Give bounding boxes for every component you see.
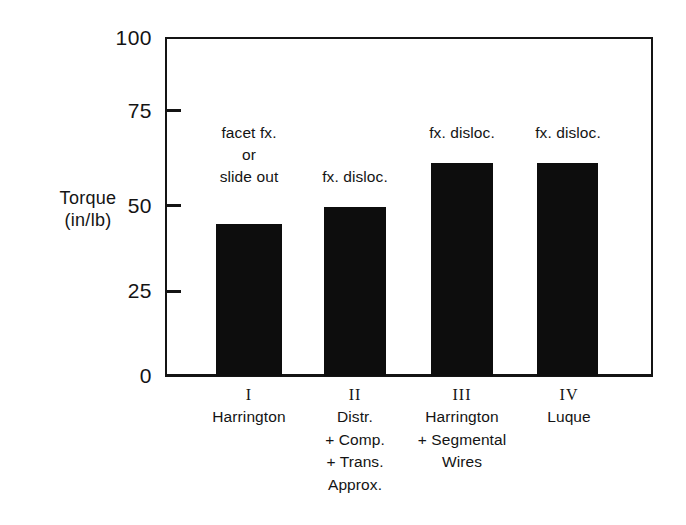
category-desc-IV-line-1: Luque [506,406,632,428]
y-tick-label-0: 0 [88,365,152,386]
bar-annotation-I-line-2: or [181,144,317,166]
y-tick-mark-50 [167,204,181,207]
baseline-segment-4 [493,374,537,377]
y-tick-label-75: 75 [88,100,152,121]
y-tick-label-25: 25 [88,280,152,301]
y-tick-mark-75 [167,109,181,112]
bar-annotation-II: fx. disloc. [291,166,419,188]
bar-I [216,224,282,376]
bar-annotation-I-line-1: facet fx. [181,122,317,144]
bar-II [324,207,386,376]
baseline-segment-1 [167,374,216,377]
bar-annotation-IV: fx. disloc. [504,122,632,144]
category-desc-III-line-3: Wires [396,451,528,473]
bar-chart-figure: Torque (in/lb) 100 75 50 25 0 facet fx. … [0,0,686,525]
category-desc-III-line-2: + Segmental [396,429,528,451]
bar-annotation-II-line-1: fx. disloc. [291,166,419,188]
category-desc-II-line-4: Approx. [291,474,419,496]
baseline-segment-3 [386,374,431,377]
bar-annotation-IV-line-1: fx. disloc. [504,122,632,144]
baseline-segment-5 [598,374,651,377]
baseline-segment-2 [282,374,324,377]
bar-IV [537,163,598,376]
y-tick-mark-25 [167,290,181,293]
category-desc-IV: Luque [506,406,632,428]
y-tick-label-50: 50 [88,195,152,216]
category-label-IV: IV Luque [506,385,632,429]
bar-III [431,163,493,376]
category-roman-IV: IV [506,385,632,404]
y-tick-label-100: 100 [88,27,152,48]
